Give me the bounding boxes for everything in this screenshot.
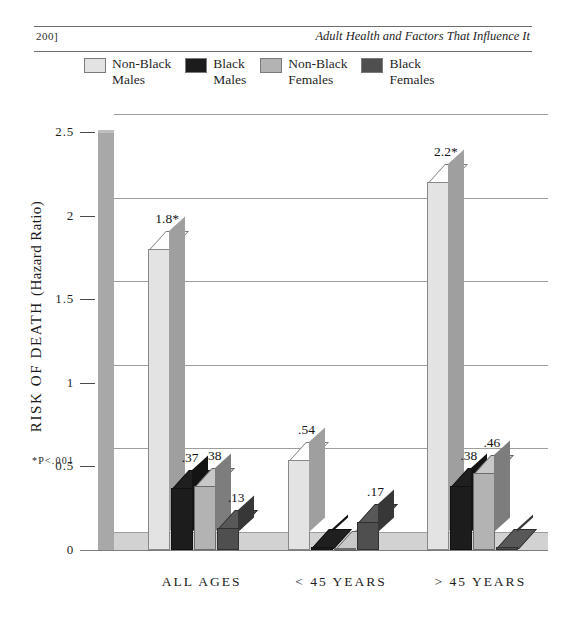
legend-swatch-non-black-males <box>84 58 106 73</box>
y-gridline-2 <box>114 198 548 199</box>
bar--45-years-non-black-males <box>288 442 310 550</box>
header-rule-bottom <box>34 51 532 52</box>
y-tick-mark-1.5 <box>80 299 95 300</box>
bar-front-face <box>288 460 310 550</box>
bar-front-face <box>427 182 449 550</box>
y-tick-mark-2 <box>80 216 95 217</box>
chart-legend: Non-BlackMalesBlackMalesNon-BlackFemales… <box>84 56 504 96</box>
x-axis-group-label-1: < 45 YEARS <box>295 574 387 590</box>
bar-front-face <box>357 522 379 550</box>
x-axis-baseline <box>80 550 548 551</box>
bar--45-years-non-black-males <box>427 164 449 550</box>
running-title: Adult Health and Factors That Influence … <box>315 29 530 44</box>
y-tick-label-2: 2 <box>30 208 74 224</box>
legend-item-black-females: BlackFemales <box>361 56 434 88</box>
bar-front-face <box>450 486 472 550</box>
legend-label-line1: Black <box>213 56 245 71</box>
legend-label-line1: Black <box>389 56 421 71</box>
plot-left-wall <box>98 132 114 550</box>
y-gridline-2.5 <box>114 114 548 115</box>
y-tick-label-2.5: 2.5 <box>30 124 74 140</box>
bar--45-years-non-black-females <box>334 531 356 550</box>
page-folio: 200] <box>36 30 58 42</box>
bar-front-face <box>148 249 170 550</box>
legend-label-line2: Males <box>213 72 246 88</box>
bar-front-face <box>496 547 518 550</box>
legend-item-black-males: BlackMales <box>185 56 246 88</box>
header-rule-top <box>34 26 532 27</box>
legend-swatch-non-black-females <box>260 58 282 73</box>
bar-value-label: .13 <box>228 490 245 506</box>
y-tick-label-1.5: 1.5 <box>30 291 74 307</box>
legend-label-line1: Non-Black <box>112 56 171 71</box>
bar-front-face <box>217 528 239 550</box>
bar-all-ages-black-males <box>171 470 193 550</box>
x-axis-group-label-2: > 45 YEARS <box>435 574 527 590</box>
legend-swatch-black-females <box>361 58 383 73</box>
bar--45-years-black-females <box>496 529 518 550</box>
bar-value-label: 1.8* <box>155 211 179 227</box>
legend-label-non-black-males: Non-BlackMales <box>112 56 171 88</box>
bar--45-years-black-males <box>450 468 472 550</box>
y-tick-mark-2.5 <box>80 132 95 133</box>
bar-all-ages-non-black-males <box>148 231 170 550</box>
bar-value-label: .46 <box>483 435 500 451</box>
bar-chart: RISK OF DEATH (Hazard Ratio) 00.511.522.… <box>0 120 566 570</box>
y-tick-label-0: 0 <box>30 542 74 558</box>
legend-item-non-black-males: Non-BlackMales <box>84 56 171 88</box>
legend-label-line2: Females <box>389 72 434 88</box>
bar-value-label: .37 <box>182 450 199 466</box>
page-running-head: 200] Adult Health and Factors That Influ… <box>34 26 532 52</box>
legend-label-line1: Non-Black <box>288 56 347 71</box>
legend-label-line2: Females <box>288 72 347 88</box>
y-axis-title: RISK OF DEATH (Hazard Ratio) <box>28 127 45 507</box>
legend-label-line2: Males <box>112 72 171 88</box>
bar-side-face <box>309 427 325 532</box>
legend-label-black-males: BlackMales <box>213 56 246 88</box>
significance-footnote: *P<.001 <box>32 455 74 466</box>
y-tick-mark-1 <box>80 383 95 384</box>
bar-front-face <box>194 486 216 550</box>
bar-front-face <box>334 548 356 550</box>
x-axis-group-label-0: ALL AGES <box>162 574 242 590</box>
legend-item-non-black-females: Non-BlackFemales <box>260 56 347 88</box>
bar-value-label: .17 <box>367 484 384 500</box>
bar-value-label: .38 <box>205 448 222 464</box>
bar-all-ages-non-black-females <box>194 468 216 550</box>
bar-front-face <box>473 473 495 550</box>
plot-wall-cap <box>98 130 114 133</box>
y-tick-label-1: 1 <box>30 375 74 391</box>
bar--45-years-black-females <box>357 504 379 550</box>
bar--45-years-non-black-females <box>473 455 495 550</box>
bar-value-label: .54 <box>298 422 315 438</box>
bar-front-face <box>311 547 333 550</box>
y-axis-title-main: RISK OF DEATH <box>28 296 44 432</box>
y-tick-mark-0.5 <box>80 466 95 467</box>
bar--45-years-black-males <box>311 529 333 550</box>
legend-label-non-black-females: Non-BlackFemales <box>288 56 347 88</box>
legend-swatch-black-males <box>185 58 207 73</box>
bar-front-face <box>171 488 193 550</box>
legend-label-black-females: BlackFemales <box>389 56 434 88</box>
bar-all-ages-black-females <box>217 510 239 550</box>
bar-value-label: 2.2* <box>434 144 458 160</box>
bar-side-face <box>494 441 510 532</box>
